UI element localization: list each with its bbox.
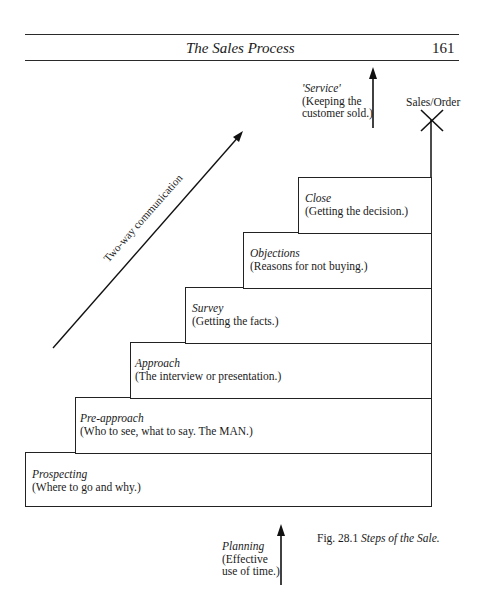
- step-desc: (Getting the facts.): [192, 315, 279, 328]
- step-pre-approach: Pre-approach (Who to see, what to say. T…: [75, 397, 432, 454]
- planning-label: Planning (Effective use of time.): [222, 540, 280, 578]
- step-approach: Approach (The interview or presentation.…: [130, 342, 432, 399]
- planning-desc-2: use of time.): [222, 565, 280, 578]
- step-desc: (Getting the decision.): [305, 205, 408, 218]
- planning-desc-1: (Effective: [222, 553, 280, 566]
- step-name: Prospecting: [32, 468, 141, 481]
- sales-order-label: Sales/Order: [406, 96, 460, 109]
- step-objections: Objections (Reasons for not buying.): [243, 232, 432, 289]
- step-name: Approach: [135, 357, 281, 370]
- step-prospecting: Prospecting (Where to go and why.): [25, 452, 432, 507]
- step-name: Objections: [250, 247, 368, 260]
- service-name: 'Service': [302, 82, 373, 95]
- step-name: Close: [305, 192, 408, 205]
- service-desc-1: (Keeping the: [302, 95, 373, 108]
- step-survey: Survey (Getting the facts.): [185, 287, 432, 344]
- step-desc: (Reasons for not buying.): [250, 260, 368, 273]
- planning-name: Planning: [222, 540, 280, 553]
- service-label: 'Service' (Keeping the customer sold.): [302, 82, 373, 120]
- step-desc: (Where to go and why.): [32, 481, 141, 494]
- caption-number: Fig. 28.1: [317, 532, 358, 544]
- step-name: Survey: [192, 302, 279, 315]
- step-desc: (The interview or presentation.): [135, 370, 281, 383]
- figure-caption: Fig. 28.1 Steps of the Sale.: [317, 532, 440, 544]
- caption-title: Steps of the Sale.: [361, 532, 440, 544]
- step-name: Pre-approach: [80, 412, 253, 425]
- step-desc: (Who to see, what to say. The MAN.): [80, 425, 253, 438]
- service-desc-2: customer sold.): [302, 107, 373, 120]
- step-close: Close (Getting the decision.): [298, 177, 432, 234]
- sales-order-cross-icon: [421, 110, 443, 178]
